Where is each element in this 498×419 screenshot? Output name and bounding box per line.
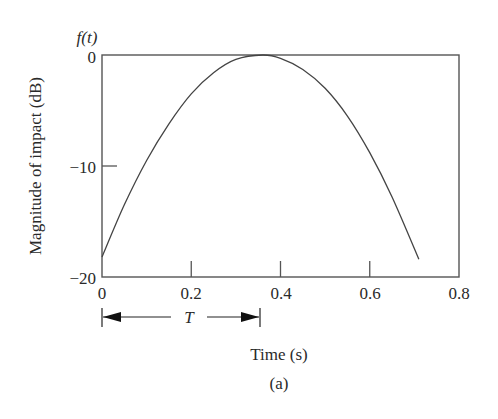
y-tick-label-0: 0 [88,48,97,67]
plot-frame [102,55,459,277]
x-tick-label-0-4: 0.4 [270,284,292,303]
x-tick-label-0-8: 0.8 [448,284,469,303]
x-axis-label: Time (s) [250,345,307,364]
chart-figure: 0 −10 −20 0 0.2 0.4 0.6 0.8 f(t) Magnitu… [0,0,498,419]
figure-caption: (a) [270,374,289,393]
y-tick-label-minus10: −10 [69,158,96,177]
arrowhead-right-icon [241,312,259,322]
data-curve [102,55,419,259]
y-tick-label-minus20: −20 [69,269,96,288]
duration-label: T [184,308,195,327]
duration-annotation [102,308,260,327]
x-tick-label-0-2: 0.2 [180,284,201,303]
x-tick-label-0-6: 0.6 [359,284,380,303]
arrowhead-left-icon [103,312,121,322]
y-axis-label: Magnitude of impact (dB) [26,77,45,255]
axis-ticks [102,166,370,277]
function-label: f(t) [77,28,98,47]
x-tick-label-0: 0 [98,284,107,303]
